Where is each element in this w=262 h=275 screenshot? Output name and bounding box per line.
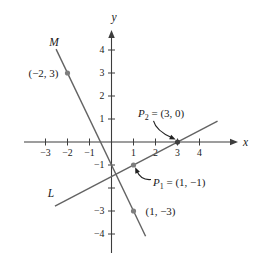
point-p2-3-0-label: P2 = (3, 0) — [137, 107, 185, 122]
point-p2-3-0 — [175, 139, 180, 144]
y-tick-label: 1 — [100, 113, 105, 124]
y-tick-label: −4 — [94, 228, 105, 239]
point-p1-1-neg1-label: P1 = (1, −1) — [152, 176, 206, 191]
x-axis-arrowhead-icon — [230, 139, 238, 146]
line-L — [55, 121, 218, 206]
line-label-L: L — [47, 187, 54, 199]
point-neg2-3 — [65, 70, 70, 75]
x-tick-label: −1 — [84, 147, 95, 158]
x-axis-label: x — [242, 136, 249, 148]
x-tick-label: 3 — [175, 147, 180, 158]
y-tick-label: −3 — [94, 205, 105, 216]
x-tick-label: 4 — [197, 147, 202, 158]
line-label-M: M — [48, 36, 60, 48]
point-neg2-3-label: (−2, 3) — [28, 67, 58, 80]
y-tick-label: 4 — [100, 44, 105, 55]
coordinate-plane-figure: xy−3−2−112344321−1−3−4ML(−2, 3)P2 = (3, … — [0, 0, 262, 275]
point-p2-3-0-arrow — [154, 121, 173, 138]
y-axis-label: y — [110, 11, 117, 24]
x-tick-label: −3 — [40, 147, 51, 158]
x-tick-label: 1 — [131, 147, 136, 158]
y-tick-label: 2 — [100, 90, 105, 101]
x-tick-label: −2 — [62, 147, 73, 158]
point-1-neg3-label: (1, −3) — [146, 205, 176, 218]
y-tick-label: −1 — [94, 159, 105, 170]
y-tick-label: 3 — [100, 67, 105, 78]
point-p1-1-neg1 — [131, 162, 136, 167]
point-1-neg3 — [131, 208, 136, 213]
point-p1-1-neg1-arrow — [137, 171, 151, 180]
y-axis-arrowhead-icon — [108, 30, 115, 38]
figure-root: xy−3−2−112344321−1−3−4ML(−2, 3)P2 = (3, … — [0, 0, 262, 275]
